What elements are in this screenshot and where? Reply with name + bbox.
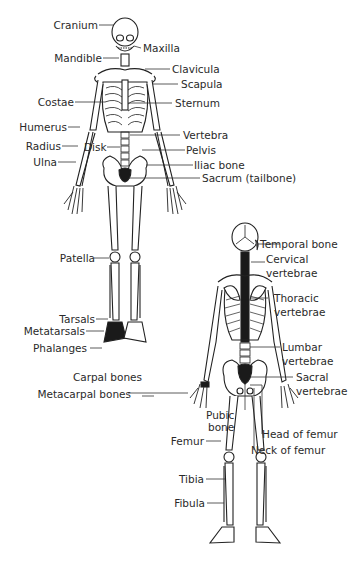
label-femur: Femur	[171, 435, 204, 447]
label-carpal-bones: Carpal bones	[73, 371, 142, 383]
label-thoracic-2: vertebrae	[274, 306, 325, 318]
label-metacarpal-bones: Metacarpal bones	[37, 388, 131, 400]
label-patella: Patella	[60, 252, 95, 264]
label-fibula: Fibula	[174, 497, 205, 509]
label-head-of-femur: Head of femur	[262, 428, 338, 440]
label-iliac-bone: Iliac bone	[194, 159, 245, 171]
label-metatarsals: Metatarsals	[24, 325, 85, 337]
label-disk: Disk	[84, 141, 107, 153]
label-pelvis: Pelvis	[186, 144, 216, 156]
label-maxilla: Maxilla	[143, 42, 180, 54]
label-costae: Costae	[38, 96, 74, 108]
label-cranium: Cranium	[53, 19, 98, 31]
label-pubic-1: Pubic	[206, 409, 234, 421]
label-neck-of-femur: Neck of femur	[251, 444, 325, 456]
label-ulna: Ulna	[33, 156, 57, 168]
label-cervical-2: vertebrae	[266, 267, 317, 279]
label-clavicula: Clavicula	[172, 63, 220, 75]
label-lumbar-1: Lumbar	[282, 341, 322, 353]
label-tibia: Tibia	[179, 473, 204, 485]
label-sacral-1: Sacral	[296, 371, 329, 383]
label-tarsals: Tarsals	[59, 313, 95, 325]
label-mandible: Mandible	[54, 52, 102, 64]
label-lumbar-2: vertebrae	[282, 355, 333, 367]
label-scapula: Scapula	[181, 78, 223, 90]
label-radius: Radius	[26, 140, 61, 152]
label-temporal-bone: Temporal bone	[260, 238, 338, 250]
label-thoracic-1: Thoracic	[274, 292, 319, 304]
label-sternum: Sternum	[175, 97, 220, 109]
label-vertebra: Vertebra	[183, 129, 228, 141]
front-skeleton	[64, 18, 186, 342]
label-phalanges: Phalanges	[33, 342, 87, 354]
label-sacrum: Sacrum (tailbone)	[202, 172, 296, 184]
label-sacral-2: vertebrae	[296, 385, 347, 397]
label-pubic-2: bone	[208, 421, 234, 433]
label-humerus: Humerus	[19, 121, 67, 133]
label-cervical-1: Cervical	[266, 253, 308, 265]
